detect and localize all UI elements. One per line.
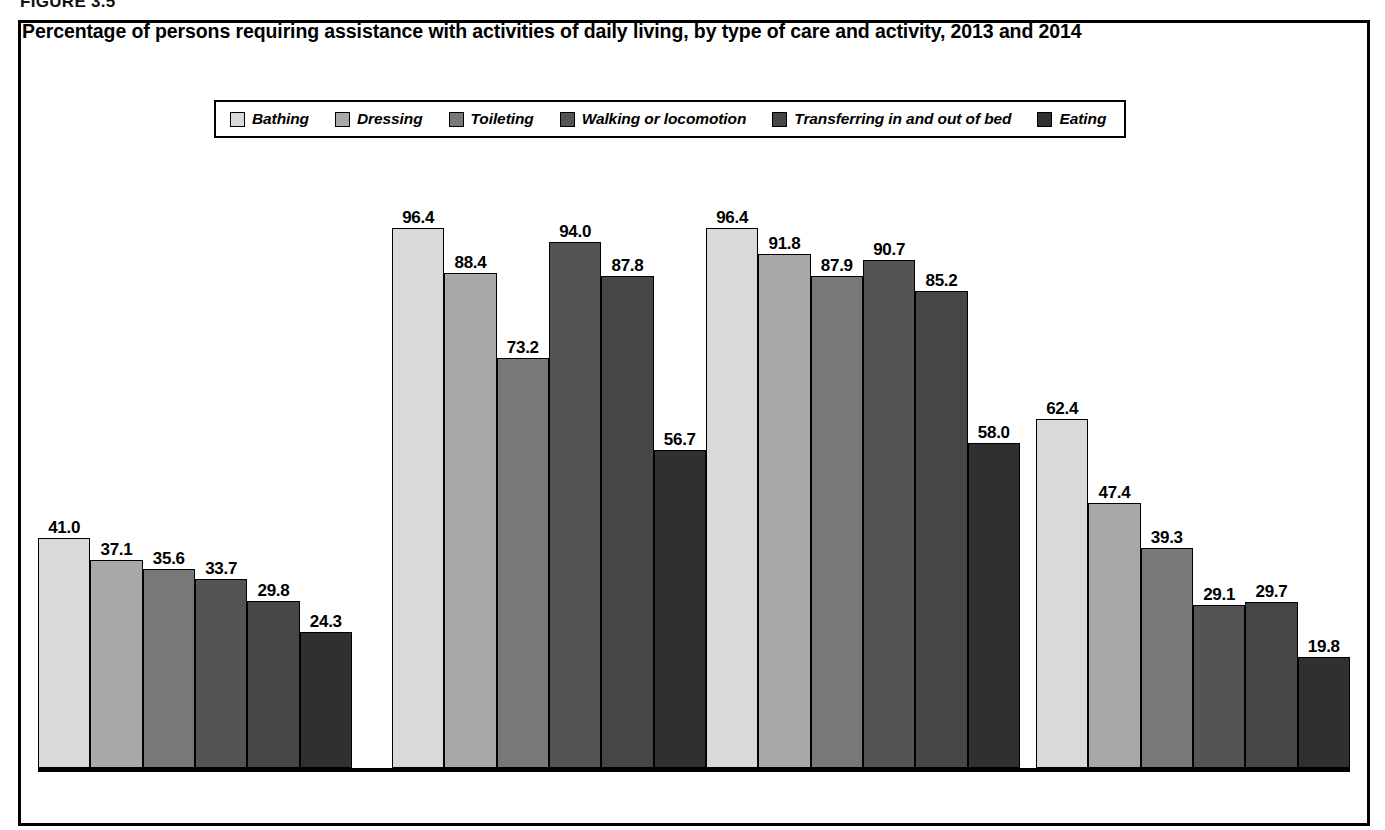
legend-swatch-icon [335, 112, 350, 127]
bar: 58.0 [968, 443, 1020, 768]
bar-value-label: 29.7 [1256, 583, 1288, 600]
bar-value-label: 33.7 [205, 560, 237, 577]
legend-item-label: Toileting [471, 110, 534, 128]
legend-item-1: Dressing [335, 110, 423, 128]
bar-value-label: 96.4 [402, 209, 434, 226]
bar: 33.7 [195, 579, 247, 768]
bar-value-label: 24.3 [310, 613, 342, 630]
legend-swatch-icon [449, 112, 464, 127]
legend-item-label: Eating [1059, 110, 1106, 128]
chart-title: Percentage of persons requiring assistan… [22, 20, 1082, 43]
legend-item-4: Transferring in and out of bed [772, 110, 1011, 128]
bar: 29.7 [1245, 602, 1297, 768]
bar-value-label: 62.4 [1046, 400, 1078, 417]
bar: 96.4 [706, 228, 758, 768]
plot-area: 41.037.135.633.729.824.3Adult dayservice… [38, 180, 1350, 772]
bar: 85.2 [915, 291, 967, 768]
bar-value-label: 56.7 [664, 431, 696, 448]
legend-item-label: Walking or locomotion [582, 110, 747, 128]
bar-group: 96.491.887.990.785.258.0 [706, 208, 1020, 768]
bar: 91.8 [758, 254, 810, 768]
bar-value-label: 58.0 [978, 424, 1010, 441]
bar: 24.3 [300, 632, 352, 768]
bar: 35.6 [143, 569, 195, 768]
bar: 29.8 [247, 601, 299, 768]
bar: 37.1 [90, 560, 142, 768]
bar: 39.3 [1141, 548, 1193, 768]
bar: 90.7 [863, 260, 915, 768]
bar: 29.1 [1193, 605, 1245, 768]
bar-value-label: 96.4 [716, 209, 748, 226]
bar-value-label: 39.3 [1151, 529, 1183, 546]
bar: 19.8 [1298, 657, 1350, 768]
legend-item-label: Bathing [252, 110, 309, 128]
bar-value-label: 29.1 [1203, 586, 1235, 603]
legend-item-label: Dressing [357, 110, 423, 128]
bar: 94.0 [549, 242, 601, 768]
legend-item-2: Toileting [449, 110, 534, 128]
bar-value-label: 87.9 [821, 257, 853, 274]
legend-swatch-icon [560, 112, 575, 127]
legend-item-5: Eating [1037, 110, 1106, 128]
bar-value-label: 73.2 [507, 339, 539, 356]
legend-item-0: Bathing [230, 110, 309, 128]
bar: 62.4 [1036, 419, 1088, 768]
bar: 96.4 [392, 228, 444, 768]
bar-value-label: 91.8 [769, 235, 801, 252]
bar: 56.7 [654, 450, 706, 768]
legend-item-3: Walking or locomotion [560, 110, 747, 128]
bar-value-label: 47.4 [1099, 484, 1131, 501]
bar-value-label: 41.0 [48, 519, 80, 536]
bar-value-label: 37.1 [101, 541, 133, 558]
bar: 87.9 [811, 276, 863, 768]
figure-page: FIGURE 3.5 Percentage of persons requiri… [0, 0, 1385, 830]
legend-item-label: Transferring in and out of bed [794, 110, 1011, 128]
bar-group: 41.037.135.633.729.824.3 [38, 208, 352, 768]
figure-number-label: FIGURE 3.5 [20, 0, 116, 7]
bar-value-label: 88.4 [455, 254, 487, 271]
bar-value-label: 29.8 [258, 582, 290, 599]
bar: 47.4 [1088, 503, 1140, 768]
bar-value-label: 85.2 [926, 272, 958, 289]
chart-legend: BathingDressingToiletingWalking or locom… [214, 100, 1126, 138]
legend-swatch-icon [772, 112, 787, 127]
bar-value-label: 94.0 [559, 223, 591, 240]
legend-swatch-icon [1037, 112, 1052, 127]
bar-value-label: 87.8 [612, 257, 644, 274]
bar-group: 62.447.439.329.129.719.8 [1036, 208, 1350, 768]
bar: 41.0 [38, 538, 90, 768]
x-axis-line [38, 768, 1350, 772]
bar-value-label: 90.7 [873, 241, 905, 258]
legend-swatch-icon [230, 112, 245, 127]
bar: 88.4 [444, 273, 496, 768]
bar: 73.2 [497, 358, 549, 768]
bar-value-label: 35.6 [153, 550, 185, 567]
bar-group: 96.488.473.294.087.856.7 [392, 208, 706, 768]
bar-value-label: 19.8 [1308, 638, 1340, 655]
bar: 87.8 [601, 276, 653, 768]
